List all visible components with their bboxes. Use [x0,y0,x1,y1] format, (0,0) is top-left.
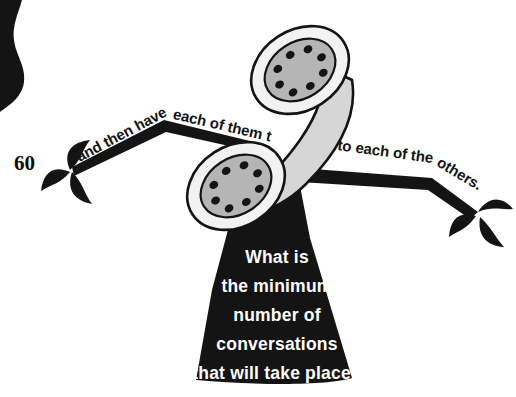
page-canvas: and then have each of them talk to each … [0,0,516,397]
leaf-icon [70,172,92,204]
illustration-canvas: and then have each of them talk to each … [0,0,516,397]
page-edge-blot-shape [0,0,24,112]
page-number: 60 [14,151,35,175]
question-line: conversations [216,334,337,354]
leaf-icon [449,214,476,237]
question-line: What is [245,247,309,267]
leaf-icon [478,200,513,212]
question-line: that will take place? [192,363,362,383]
leaf-icon [479,217,504,247]
question-line: number of [233,305,320,325]
leaf-icon [41,169,70,191]
question-line: the minimum [221,276,332,296]
